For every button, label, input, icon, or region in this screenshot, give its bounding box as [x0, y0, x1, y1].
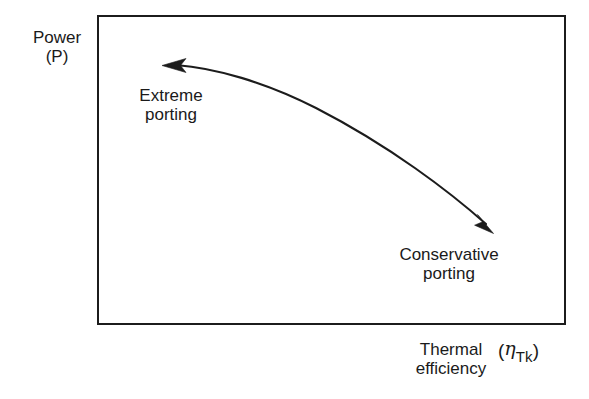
- eta-symbol: η: [504, 337, 515, 359]
- annotation-conservative-porting: Conservative porting: [383, 245, 515, 283]
- x-axis-symbol-close-paren: ): [533, 340, 539, 361]
- figure-root: Power (P) Extreme porting Conservative p…: [0, 0, 589, 399]
- annotation-extreme-porting-line2: porting: [122, 105, 220, 124]
- annotation-conservative-porting-line2: porting: [383, 264, 515, 283]
- x-axis-label-line1: Thermal: [408, 340, 494, 359]
- annotation-extreme-porting: Extreme porting: [122, 86, 220, 124]
- y-axis-label-line2: (P): [22, 47, 92, 66]
- y-axis-label-line1: Power: [22, 28, 92, 47]
- x-axis-label: Thermal efficiency: [408, 340, 494, 378]
- x-axis-symbol: (ηTk): [498, 340, 539, 362]
- x-axis-label-line2: efficiency: [408, 359, 494, 378]
- y-axis-label: Power (P): [22, 28, 92, 66]
- annotation-extreme-porting-line1: Extreme: [122, 86, 220, 105]
- annotation-conservative-porting-line1: Conservative: [383, 245, 515, 264]
- x-axis-symbol-subscript: Tk: [516, 348, 533, 365]
